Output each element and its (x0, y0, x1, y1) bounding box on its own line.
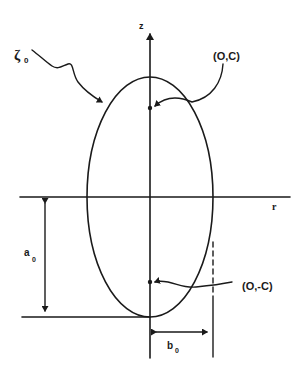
surface-label: ζ (14, 47, 21, 63)
spheroid-diagram: z r ζ 0 (O,C) (O,-C) a 0 b 0 (0, 0, 308, 376)
b0-label-subscript: 0 (175, 347, 179, 354)
r-axis-label: r (272, 201, 277, 212)
focus-top-point (148, 106, 152, 110)
b0-label: b (167, 340, 173, 351)
surface-leader-arrow (32, 50, 102, 102)
focus-top-label: (O,C) (213, 50, 240, 62)
a0-label-subscript: 0 (32, 256, 36, 263)
focus-bottom-label: (O,-C) (242, 280, 273, 292)
a0-label: a (24, 247, 30, 258)
focus-top-leader (155, 64, 223, 106)
z-axis-label: z (139, 21, 144, 31)
focus-bottom-point (148, 280, 152, 284)
surface-label-subscript: 0 (24, 56, 29, 65)
